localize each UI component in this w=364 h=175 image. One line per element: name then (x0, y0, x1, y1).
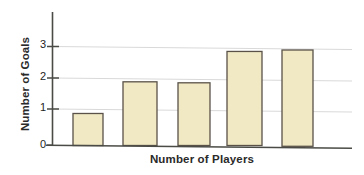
bar-3 (178, 83, 210, 146)
y-tick-label-1: 1 (30, 101, 46, 113)
bar-chart: 3 2 1 0 Number of Goals Number of Player… (0, 0, 364, 175)
bars (73, 50, 313, 146)
bar-2 (123, 82, 157, 146)
chart-plot-area (0, 0, 364, 175)
y-tick-label-3: 3 (30, 38, 46, 50)
y-tick-label-0: 0 (30, 138, 46, 150)
bar-5 (282, 50, 313, 146)
x-axis-title: Number of Players (52, 153, 352, 165)
gridline-3 (52, 47, 352, 50)
bar-4 (227, 51, 262, 145)
bar-1 (73, 113, 103, 145)
y-axis-title: Number of Goals (19, 19, 31, 149)
y-tick-label-2: 2 (30, 70, 46, 82)
